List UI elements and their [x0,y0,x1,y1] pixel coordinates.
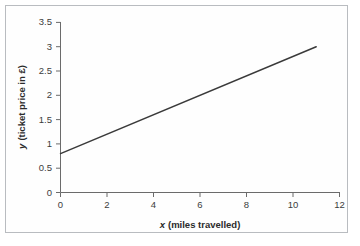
x-tick-label: 6 [197,199,202,210]
line-chart: 0 0.5 1 1.5 2 2.5 3 3.5 0 2 4 6 8 10 12 … [0,0,360,246]
x-axis-title-rest: (miles travelled) [168,219,240,230]
y-tick-label: 2 [47,89,52,100]
x-axis-title-var: x [159,219,166,230]
y-tick-label: 3 [47,41,52,52]
x-tick-label: 10 [288,199,299,210]
y-tick-label: 0 [47,187,52,198]
y-axis-title: y(ticket price in £) [16,65,27,150]
y-tick-label: 3.5 [39,16,52,27]
y-tick-label: 1 [47,138,52,149]
y-axis-title-rest: (ticket price in £) [16,65,27,141]
x-axis-tick-labels: 0 2 4 6 8 10 12 [58,199,345,210]
y-tick-label: 0.5 [39,162,52,173]
x-tick-label: 4 [151,199,156,210]
figure-container: 0 0.5 1 1.5 2 2.5 3 3.5 0 2 4 6 8 10 12 … [0,0,360,246]
y-axis-tick-labels: 0 0.5 1 1.5 2 2.5 3 3.5 [39,16,52,197]
data-series-line [61,47,317,154]
x-tick-label: 12 [334,199,345,210]
x-tick-label: 2 [104,199,109,210]
x-tick-label: 8 [244,199,249,210]
x-axis-ticks [61,193,340,198]
x-axis-title: x(miles travelled) [159,219,241,230]
y-axis-ticks [56,22,61,192]
y-tick-label: 2.5 [39,65,52,76]
y-tick-label: 1.5 [39,114,52,125]
y-axis-title-var: y [16,143,27,150]
x-tick-label: 0 [58,199,63,210]
